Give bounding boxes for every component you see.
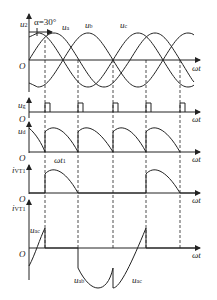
x-axis-label-2: ωt [192, 115, 201, 124]
uvt1-label: iVT1 [12, 204, 26, 213]
waveform-diagram [0, 0, 217, 300]
uc-label: uc [120, 21, 127, 30]
uac-label-2: uac [132, 276, 142, 285]
origin-label-3: O [19, 154, 26, 163]
curve-uvt1 [29, 228, 196, 288]
uab-label: uab [74, 276, 84, 285]
origin-label-4: O [19, 195, 26, 204]
ub-label: ub [85, 21, 93, 30]
wt1-label: ωt1 [54, 156, 66, 165]
x-axis-label-3: ωt [192, 155, 201, 164]
x-axis-label-1: ωt [192, 64, 201, 73]
ud-label: ud [18, 127, 26, 136]
uac-label-1: uac [30, 226, 40, 235]
alpha-label: α=30° [34, 18, 56, 27]
origin-label-1: O [19, 62, 26, 71]
ug-label: ug [18, 101, 26, 110]
curve-ud [29, 128, 180, 152]
curve-ivt1 [29, 170, 196, 193]
origin-label-2: O [19, 115, 26, 124]
ua-label: ua [62, 23, 69, 32]
ivt1-label: iVT1 [12, 166, 26, 175]
x-axis-label-5: ωt [192, 251, 201, 260]
gate-pulses [45, 103, 185, 112]
x-axis-label-4: ωt [192, 196, 201, 205]
u2-label: u2 [20, 20, 28, 29]
origin-label-5: O [19, 250, 26, 259]
